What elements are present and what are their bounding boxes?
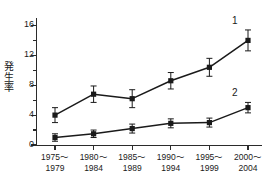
series-1 bbox=[52, 30, 251, 123]
data-point-1-1 bbox=[91, 92, 96, 97]
data-point-2-2 bbox=[130, 126, 135, 131]
data-point-1-0 bbox=[52, 113, 57, 118]
data-point-2-5 bbox=[245, 105, 250, 110]
series-label-2: 2 bbox=[232, 87, 238, 98]
incidence-rate-line-chart: 発 生 率 0481216 1975〜19791980〜19841985〜198… bbox=[0, 0, 270, 181]
data-point-1-5 bbox=[245, 38, 250, 43]
series-2 bbox=[52, 102, 251, 141]
plot-area bbox=[0, 0, 270, 181]
series-line-1 bbox=[55, 40, 248, 115]
data-point-1-2 bbox=[130, 96, 135, 101]
series-line-2 bbox=[55, 108, 248, 138]
data-point-1-4 bbox=[207, 65, 212, 70]
series-label-1: 1 bbox=[232, 15, 238, 26]
data-point-1-3 bbox=[168, 78, 173, 83]
data-point-2-0 bbox=[52, 135, 57, 140]
data-point-2-3 bbox=[168, 121, 173, 126]
data-point-2-1 bbox=[91, 131, 96, 136]
data-point-2-4 bbox=[207, 120, 212, 125]
